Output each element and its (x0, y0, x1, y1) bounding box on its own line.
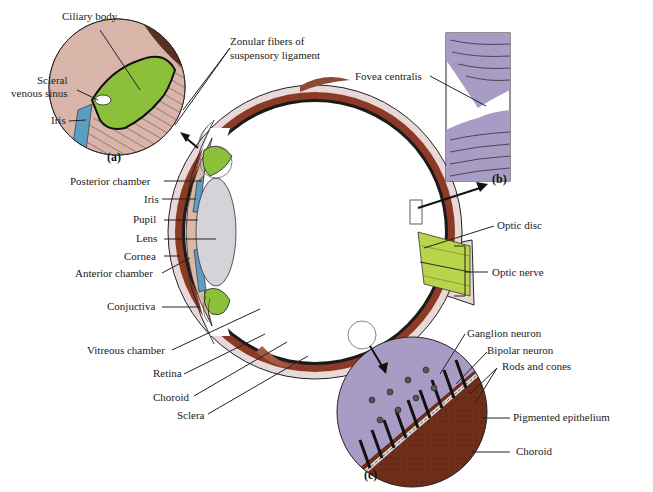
label-choroid-inset: Choroid (516, 445, 552, 458)
inset-a-ciliary (49, 19, 185, 155)
eye-anatomy-diagram: Ciliary body Zonular fibers of suspensor… (0, 0, 653, 492)
label-lens: Lens (136, 232, 157, 245)
label-retina: Retina (153, 367, 182, 380)
label-bipolar-neuron: Bipolar neuron (487, 344, 553, 357)
label-zonular-fibers-1: Zonular fibers of (230, 35, 305, 48)
panel-label-a: (a) (107, 150, 121, 165)
label-sclera: Sclera (177, 409, 204, 422)
label-optic-disc: Optic disc (497, 219, 542, 232)
label-zonular-fibers-2: suspensory ligament (230, 49, 320, 62)
label-posterior-chamber: Posterior chamber (70, 175, 150, 188)
label-vitreous-chamber: Vitreous chamber (87, 344, 165, 357)
label-anterior-chamber: Anterior chamber (75, 267, 153, 280)
label-ganglion-neuron: Ganglion neuron (467, 327, 541, 340)
label-scleral-1: Scleral (37, 74, 68, 87)
inset-c-retina (337, 337, 487, 487)
panel-label-b: (b) (492, 172, 507, 187)
label-optic-nerve: Optic nerve (492, 266, 544, 279)
label-rods-and-cones: Rods and cones (502, 360, 571, 373)
label-scleral-2: venous sinus (11, 87, 68, 100)
label-conjuctiva: Conjuctiva (107, 300, 155, 313)
panel-label-c: (c) (364, 468, 377, 483)
label-ciliary-body: Ciliary body (62, 10, 117, 23)
label-fovea-centralis: Fovea centralis (355, 70, 422, 83)
label-choroid: Choroid (153, 391, 189, 404)
label-iris-inset: Iris (51, 114, 66, 127)
label-cornea: Cornea (124, 250, 156, 263)
eyeball (168, 77, 474, 379)
inset-b-fovea (446, 33, 510, 181)
label-pigmented-epithelium: Pigmented epithelium (513, 411, 610, 424)
label-iris: Iris (144, 193, 159, 206)
label-pupil: Pupil (133, 213, 156, 226)
